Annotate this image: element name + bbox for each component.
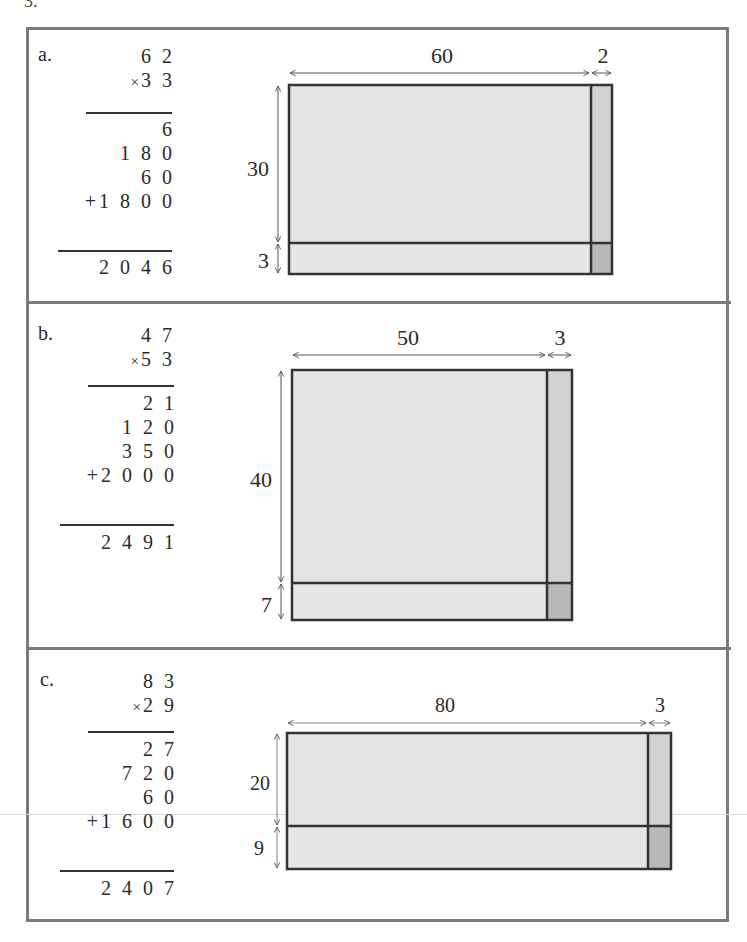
region-ones-by-ones <box>591 243 612 274</box>
region-tens-by-tens <box>287 733 648 826</box>
width-ones-label: 2 <box>598 43 609 68</box>
region-tens-by-ones <box>289 243 591 274</box>
area-models: 60 2 30 3 50 3 40 7 80 3 20 <box>0 0 747 942</box>
height-ones-label: 3 <box>258 248 269 273</box>
width-ones-label: 3 <box>555 325 566 350</box>
region-ones-by-ones <box>648 826 671 869</box>
width-tens-label: 80 <box>435 694 455 716</box>
height-tens-label: 20 <box>250 772 270 794</box>
area-model-a: 60 2 30 3 <box>247 43 612 274</box>
region-tens-by-ones <box>287 826 648 869</box>
area-model-b: 50 3 40 7 <box>250 325 572 620</box>
height-tens-label: 40 <box>250 467 272 492</box>
region-ones-by-tens <box>591 85 612 243</box>
region-tens-by-ones <box>292 583 547 620</box>
width-tens-label: 50 <box>397 325 419 350</box>
region-ones-by-tens <box>648 733 671 826</box>
height-ones-label: 9 <box>254 837 264 859</box>
region-ones-by-tens <box>547 370 572 583</box>
area-model-c: 80 3 20 9 <box>250 694 671 869</box>
region-ones-by-ones <box>547 583 572 620</box>
region-tens-by-tens <box>292 370 547 583</box>
region-tens-by-tens <box>289 85 591 243</box>
height-tens-label: 30 <box>247 156 269 181</box>
width-ones-label: 3 <box>655 694 665 716</box>
width-tens-label: 60 <box>431 43 453 68</box>
height-ones-label: 7 <box>261 592 272 617</box>
